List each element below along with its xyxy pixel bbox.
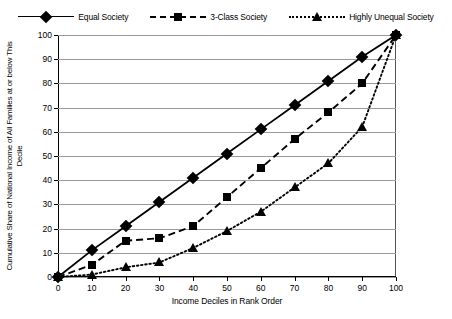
y-tick-label: 20 [43, 224, 52, 233]
y-tick-label: 90 [43, 55, 52, 64]
y-tick-label: 70 [43, 103, 52, 112]
square-marker-icon [291, 135, 299, 143]
y-tick-label: 60 [43, 128, 52, 137]
x-tick-label: 70 [290, 284, 299, 293]
x-tick-mark [261, 277, 262, 281]
y-axis-title: Cumulative Share of National Income of A… [5, 35, 19, 277]
legend-item-3-class-society: 3-Class Society [150, 11, 267, 23]
x-tick-label: 20 [121, 284, 130, 293]
y-tick-label: 50 [43, 152, 52, 161]
legend-item-highly-unequal-society: Highly Unequal Society [289, 11, 434, 23]
legend-swatch-equal-society [18, 11, 74, 23]
x-tick-label: 50 [222, 284, 231, 293]
triangle-marker-icon [222, 226, 232, 235]
triangle-marker-icon [188, 243, 198, 252]
x-tick-mark [295, 277, 296, 281]
square-marker-icon [174, 13, 182, 21]
triangle-marker-icon [53, 272, 63, 281]
triangle-marker-icon [256, 207, 266, 216]
x-tick-mark [227, 277, 228, 281]
legend-swatch-3-class-society [150, 11, 206, 23]
legend-item-equal-society: Equal Society [18, 11, 128, 23]
x-tick-label: 90 [357, 284, 366, 293]
square-marker-icon [88, 261, 96, 269]
x-tick-label: 30 [155, 284, 164, 293]
triangle-marker-icon [87, 270, 97, 279]
square-marker-icon [358, 79, 366, 87]
x-tick-mark [362, 277, 363, 281]
triangle-marker-icon [312, 12, 322, 21]
legend-label-equal-society: Equal Society [78, 13, 128, 22]
y-tick-label: 80 [43, 79, 52, 88]
chart-legend: Equal Society 3-Class Society Highly Une… [0, 6, 452, 28]
legend-label-highly-unequal-society: Highly Unequal Society [349, 13, 434, 22]
x-tick-mark [193, 277, 194, 281]
square-marker-icon [257, 164, 265, 172]
square-marker-icon [223, 193, 231, 201]
triangle-marker-icon [391, 30, 401, 39]
diamond-marker-icon [40, 11, 53, 24]
legend-swatch-highly-unequal-society [289, 11, 345, 23]
triangle-marker-icon [154, 258, 164, 267]
x-tick-label: 40 [188, 284, 197, 293]
y-tick-label: 10 [43, 249, 52, 258]
x-axis-title: Income Deciles in Rank Order [58, 296, 396, 306]
x-tick-label: 10 [87, 284, 96, 293]
square-marker-icon [155, 234, 163, 242]
y-tick-label: 30 [43, 200, 52, 209]
y-tick-label: 40 [43, 176, 52, 185]
x-tick-label: 0 [56, 284, 61, 293]
legend-label-3-class-society: 3-Class Society [210, 13, 267, 22]
square-marker-icon [324, 108, 332, 116]
x-tick-mark [328, 277, 329, 281]
x-tick-mark [126, 277, 127, 281]
chart-figure: Equal Society 3-Class Society Highly Une… [0, 0, 452, 319]
x-tick-mark [159, 277, 160, 281]
square-marker-icon [189, 222, 197, 230]
triangle-marker-icon [290, 183, 300, 192]
triangle-marker-icon [323, 158, 333, 167]
x-tick-label: 80 [324, 284, 333, 293]
square-marker-icon [122, 237, 130, 245]
x-tick-label: 100 [389, 284, 403, 293]
y-tick-label: 100 [38, 31, 52, 40]
triangle-marker-icon [121, 262, 131, 271]
x-tick-mark [396, 277, 397, 281]
plot-area: 0102030405060708090100 01020304050607080… [58, 35, 396, 277]
x-tick-label: 60 [256, 284, 265, 293]
triangle-marker-icon [357, 122, 367, 131]
